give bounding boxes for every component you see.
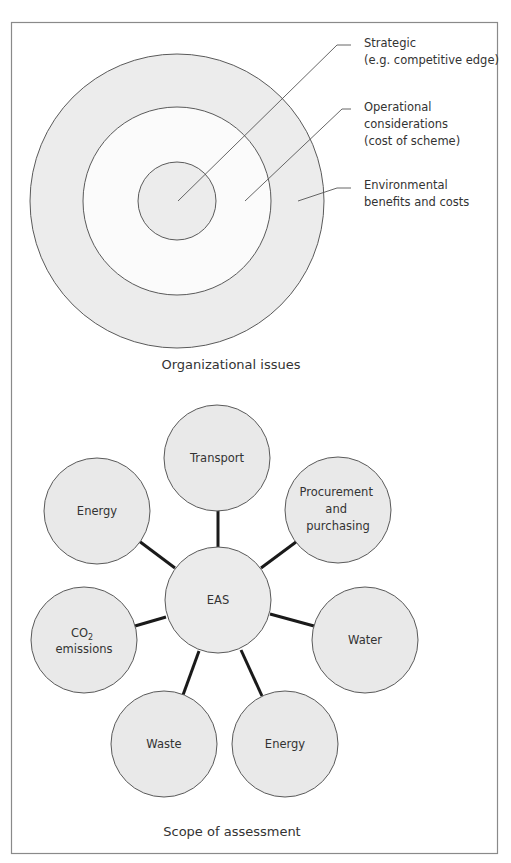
svg-text:Waste: Waste — [146, 737, 181, 751]
node-co2-emissions: CO2 emissions — [31, 587, 137, 693]
svg-text:emissions: emissions — [56, 642, 113, 656]
svg-text:Energy: Energy — [77, 504, 117, 518]
figure: Strategic (e.g. competitive edge) Operat… — [0, 0, 511, 863]
node-waste: Waste — [111, 691, 217, 797]
svg-text:EAS: EAS — [207, 593, 229, 607]
svg-text:Energy: Energy — [265, 737, 305, 751]
caption-scope-of-assessment: Scope of assessment — [163, 824, 300, 839]
svg-text:Transport: Transport — [189, 451, 244, 465]
node-transport: Transport — [164, 405, 270, 511]
node-energy-top: Energy — [44, 458, 150, 564]
node-procurement: Procurement and purchasing — [285, 457, 391, 563]
node-water: Water — [312, 587, 418, 693]
node-energy-bottom: Energy — [232, 691, 338, 797]
ring-strategic — [138, 162, 216, 240]
node-eas-center: EAS — [165, 547, 271, 653]
svg-text:Water: Water — [348, 633, 382, 647]
caption-organizational-issues: Organizational issues — [162, 357, 301, 372]
